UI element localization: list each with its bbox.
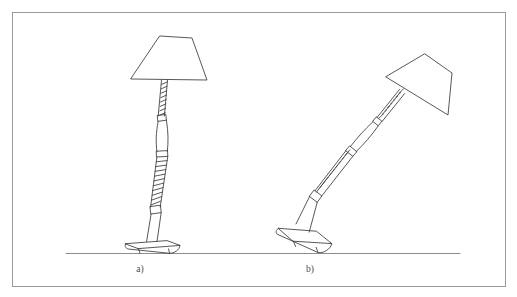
panel-b-label: b) <box>306 264 314 275</box>
panel-a-label: a) <box>136 264 143 275</box>
figure-background <box>0 0 517 297</box>
figure-container: a) <box>0 0 517 297</box>
lamp-figure: a) <box>0 0 517 297</box>
